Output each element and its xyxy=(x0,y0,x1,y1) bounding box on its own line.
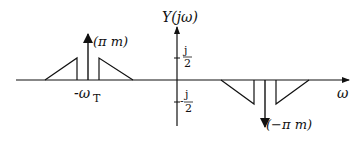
omega-axis-label: ω xyxy=(337,85,349,101)
svg-text:-: - xyxy=(180,95,184,108)
right-spectrum-upper-band xyxy=(276,80,309,104)
left-spectrum-upper-band xyxy=(99,58,133,80)
impulse-pos-label: (π m) xyxy=(93,34,128,49)
svg-text:j: j xyxy=(182,44,187,57)
tick-label-pos-half: j 2 xyxy=(182,44,192,70)
svg-text:T: T xyxy=(93,92,101,105)
svg-text:j: j xyxy=(183,88,188,101)
impulse-neg-label: (−π m) xyxy=(266,117,312,132)
left-spectrum-lower-band xyxy=(45,58,77,80)
y-axis-title: Y(jω) xyxy=(162,9,198,25)
svg-text:2: 2 xyxy=(184,57,191,70)
spectrum-diagram: Y(jω) ω j 2 - j 2 -ω T (π m) (−π m) xyxy=(0,0,363,141)
right-spectrum-lower-band xyxy=(221,80,254,104)
omega-t-label: -ω T xyxy=(74,85,101,105)
tick-label-neg-half: - j 2 xyxy=(180,88,193,115)
svg-text:2: 2 xyxy=(185,102,192,115)
svg-text:-ω: -ω xyxy=(74,85,91,101)
